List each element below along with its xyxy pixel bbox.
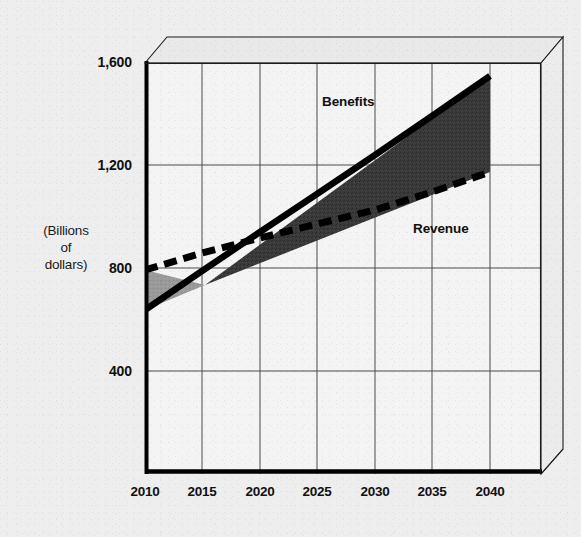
x-tick-label-2015: 2015	[172, 484, 232, 499]
y-tick-label-800: 800	[62, 260, 132, 276]
x-tick-label-2040: 2040	[460, 484, 520, 499]
y-tick-label-1200: 1,200	[62, 157, 132, 173]
y-tick-label-400: 400	[62, 363, 132, 379]
x-tick-label-2035: 2035	[402, 484, 462, 499]
social-security-chart: (Billions of dollars) 1,600 1,200 800 40…	[0, 0, 581, 537]
x-tick-label-2025: 2025	[287, 484, 347, 499]
revenue-series-label: Revenue	[413, 221, 469, 236]
x-tick-label-2010: 2010	[115, 484, 175, 499]
panel-right-3d	[541, 37, 563, 474]
benefits-series-label: Benefits	[322, 94, 374, 109]
x-tick-label-2030: 2030	[345, 484, 405, 499]
y-axis-title-line-1: (Billions	[8, 222, 124, 239]
x-tick-label-2020: 2020	[230, 484, 290, 499]
panel-top-3d	[145, 37, 563, 63]
y-axis-title-line-2: of	[8, 239, 124, 256]
y-tick-label-1600: 1,600	[62, 54, 132, 70]
